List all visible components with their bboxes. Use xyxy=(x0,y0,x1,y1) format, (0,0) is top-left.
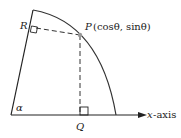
label-P: P xyxy=(84,21,92,32)
x-axis-arrow-icon xyxy=(138,112,147,118)
label-P-coords: (cosθ, sinθ) xyxy=(93,21,151,32)
dashed-segment-PR xyxy=(36,28,80,35)
unit-circle-sector-diagram: R P (cosθ, sinθ) α Q x -axis xyxy=(0,0,181,138)
label-Q: Q xyxy=(76,121,84,132)
right-angle-mark-Q xyxy=(80,107,88,115)
label-R: R xyxy=(19,20,28,31)
right-angle-mark-R xyxy=(30,26,37,33)
point-P xyxy=(78,33,82,37)
label-alpha: α xyxy=(16,102,23,113)
label-x-axis: -axis xyxy=(153,109,176,120)
